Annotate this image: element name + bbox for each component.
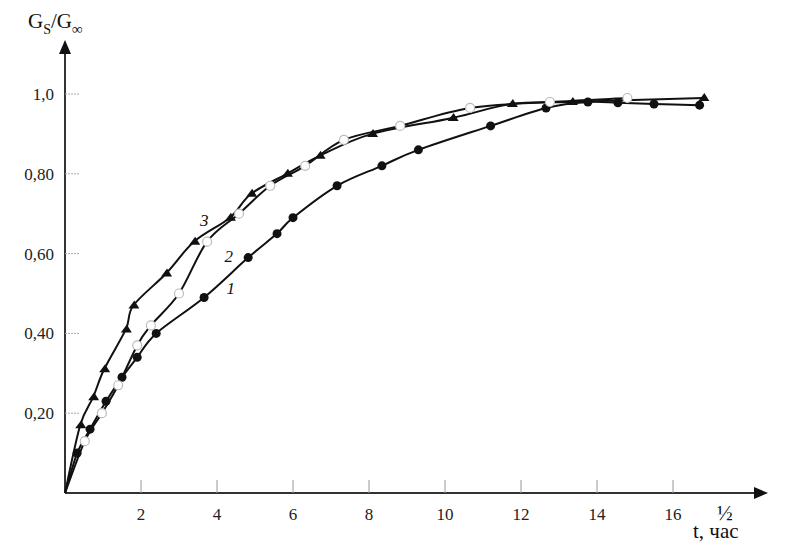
y-title-slash: /G <box>51 9 72 33</box>
data-point-open-circle-icon <box>466 103 475 112</box>
y-axis-arrow-icon <box>59 40 71 54</box>
data-point-open-circle-icon <box>203 237 212 246</box>
y-tick-label: 0,80 <box>24 165 54 184</box>
chart: 2468101214160,200,400,600,801,0 123 GS/G… <box>0 0 785 550</box>
x-axis-arrow-icon <box>754 487 768 499</box>
x-tick-label: 10 <box>437 505 454 524</box>
data-point-filled-circle-icon <box>333 181 342 190</box>
curve-3 <box>65 98 703 493</box>
curve-label-1: 1 <box>227 279 236 298</box>
curve-labels: 123 <box>199 211 235 298</box>
data-point-triangle-icon <box>99 364 110 372</box>
x-axis-title: t, час <box>693 519 739 543</box>
data-point-open-circle-icon <box>80 437 89 446</box>
data-point-filled-circle-icon <box>650 99 659 108</box>
x-tick-label: 14 <box>589 505 607 524</box>
axes <box>59 40 768 499</box>
y-tick-label: 0,20 <box>24 404 54 423</box>
x-tick-label: 6 <box>289 505 298 524</box>
data-point-open-circle-icon <box>623 93 632 102</box>
x-tick-label: 16 <box>665 505 682 524</box>
y-title-sub-inf: ∞ <box>72 21 83 37</box>
data-point-filled-circle-icon <box>200 293 209 302</box>
curve-label-2: 2 <box>225 247 234 266</box>
data-point-filled-circle-icon <box>414 145 423 154</box>
data-point-triangle-icon <box>75 420 86 428</box>
data-point-open-circle-icon <box>396 121 405 130</box>
y-tick-label: 1,0 <box>33 85 54 104</box>
y-title-g: G <box>28 9 43 33</box>
data-point-filled-circle-icon <box>73 449 82 458</box>
data-point-triangle-icon <box>698 93 709 101</box>
data-point-filled-circle-icon <box>133 353 142 362</box>
data-point-open-circle-icon <box>114 381 123 390</box>
x-tick-label: 2 <box>137 505 146 524</box>
data-point-open-circle-icon <box>266 181 275 190</box>
data-point-filled-circle-icon <box>486 121 495 130</box>
data-point-open-circle-icon <box>235 209 244 218</box>
data-point-open-circle-icon <box>146 321 155 330</box>
x-tick-label: 12 <box>513 505 530 524</box>
data-point-open-circle-icon <box>97 409 106 418</box>
data-point-filled-circle-icon <box>583 97 592 106</box>
x-tick-label: 8 <box>365 505 374 524</box>
data-point-triangle-icon <box>88 392 99 400</box>
y-axis-title: GS/G∞ <box>28 9 83 37</box>
data-point-triangle-icon <box>121 324 132 332</box>
curve-2 <box>65 98 627 493</box>
data-point-filled-circle-icon <box>102 397 111 406</box>
data-point-open-circle-icon <box>175 289 184 298</box>
data-point-filled-circle-icon <box>377 161 386 170</box>
data-point-open-circle-icon <box>301 161 310 170</box>
data-point-filled-circle-icon <box>152 329 161 338</box>
curve-1 <box>65 102 700 493</box>
y-title-sub-s: S <box>43 22 51 37</box>
data-point-filled-circle-icon <box>273 229 282 238</box>
data-point-open-circle-icon <box>339 135 348 144</box>
data-point-filled-circle-icon <box>86 425 95 434</box>
data-point-filled-circle-icon <box>613 98 622 107</box>
data-point-open-circle-icon <box>133 341 142 350</box>
curve-label-3: 3 <box>199 211 209 230</box>
y-tick-label: 0,60 <box>24 245 54 264</box>
data-point-open-circle-icon <box>545 97 554 106</box>
data-point-filled-circle-icon <box>695 101 704 110</box>
x-tick-label: 4 <box>213 505 222 524</box>
ticks: 2468101214160,200,400,600,801,0 <box>24 85 681 524</box>
markers <box>73 93 710 458</box>
y-tick-label: 0,40 <box>24 324 54 343</box>
data-point-filled-circle-icon <box>244 253 253 262</box>
data-point-filled-circle-icon <box>289 213 298 222</box>
curves <box>65 98 703 493</box>
